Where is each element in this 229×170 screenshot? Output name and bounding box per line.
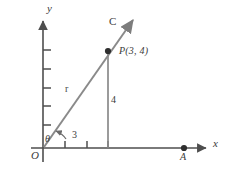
x-axis-ticks <box>65 141 108 148</box>
point-p-label: P(3, 4) <box>119 46 148 56</box>
origin-label: O <box>31 150 39 161</box>
angle-arc <box>56 131 66 139</box>
y-axis-label: y <box>47 3 52 14</box>
figure-canvas: y x O C P(3, 4) r 4 3 θ A <box>0 0 229 170</box>
y-axis-ticks <box>43 50 51 125</box>
x-axis-label: x <box>213 138 218 149</box>
angle-label: θ <box>45 134 50 144</box>
radius-label: r <box>65 84 68 94</box>
vertical-leg-label: 4 <box>111 95 116 105</box>
radius-ray <box>44 20 133 147</box>
point-a-label: A <box>180 152 186 162</box>
point-p-marker <box>105 48 111 54</box>
ray-end-label-c: C <box>109 16 116 27</box>
horizontal-leg-label: 3 <box>72 130 77 140</box>
